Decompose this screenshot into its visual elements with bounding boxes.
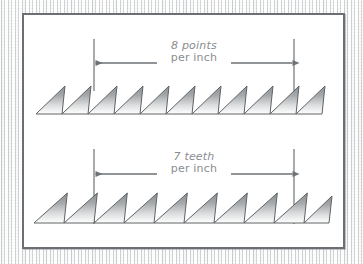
teeth-label-line2: per inch [171, 162, 217, 175]
saw-tooth [304, 196, 332, 223]
points-label-line2: per inch [171, 51, 217, 64]
teeth-teeth [34, 193, 332, 223]
saw-tooth [94, 193, 127, 223]
illustration-panel: 8 points per inch [22, 13, 345, 249]
points-row-group: 8 points per inch [36, 39, 325, 114]
saw-tooth [166, 86, 195, 114]
saw-tooth [36, 86, 65, 114]
saw-tooth [244, 193, 277, 223]
saw-tooth [62, 86, 91, 114]
saw-tooth [244, 86, 273, 114]
saw-tooth [140, 86, 169, 114]
saw-tooth [296, 86, 325, 114]
saw-tooth [88, 86, 117, 114]
saw-tooth [192, 86, 221, 114]
saw-tooth [114, 86, 143, 114]
saw-tooth [270, 86, 299, 114]
saw-tooth [184, 193, 217, 223]
saw-tooth [218, 86, 247, 114]
saw-tooth [34, 193, 67, 223]
saw-tooth [214, 193, 247, 223]
saw-tooth [124, 193, 157, 223]
figure-root: 8 points per inch [0, 0, 363, 264]
saw-tooth [64, 193, 97, 223]
saw-tooth [274, 193, 307, 223]
teeth-row-group: 7 teeth per inch [34, 149, 332, 224]
saw-tooth-svg: 8 points per inch [24, 15, 343, 247]
points-teeth [36, 86, 325, 114]
saw-tooth [154, 193, 187, 223]
